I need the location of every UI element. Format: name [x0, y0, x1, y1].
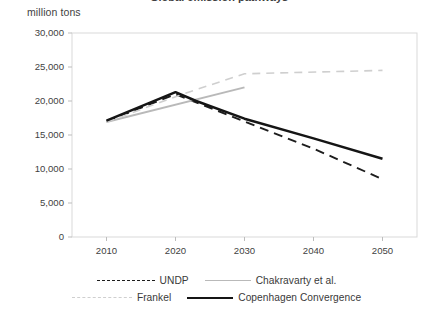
plot-frame	[72, 33, 417, 237]
legend-line-icon-copenhagen	[187, 293, 233, 303]
legend-line-icon-undp	[97, 276, 155, 286]
legend-label-copenhagen: Copenhagen Convergence	[238, 292, 361, 303]
emissions-line-chart: Global emission pathways million tons 30…	[0, 0, 433, 313]
legend-line-icon-frankel	[72, 293, 132, 303]
y-tick-label: 15,000	[35, 129, 64, 140]
legend-item-chakravarty: Chakravarty et al.	[205, 275, 337, 286]
legend-row-bottom: Frankel Copenhagen Convergence	[0, 289, 433, 306]
legend-row-top: UNDP Chakravarty et al.	[0, 272, 433, 289]
y-tick-label: 25,000	[35, 61, 64, 72]
chart-legend: UNDP Chakravarty et al. Frankel Copenhag…	[0, 272, 433, 306]
legend-label-chakravarty: Chakravarty et al.	[256, 275, 337, 286]
plot-area: 30,00025,00020,00015,00010,0005,0000 201…	[0, 0, 433, 272]
x-tick-label: 2040	[303, 245, 324, 256]
x-tick-label: 2030	[234, 245, 255, 256]
legend-item-frankel: Frankel	[72, 292, 171, 303]
legend-label-frankel: Frankel	[137, 292, 171, 303]
y-tick-label: 5,000	[40, 197, 64, 208]
legend-item-undp: UNDP	[97, 275, 189, 286]
y-axis-ticks: 30,00025,00020,00015,00010,0005,0000	[35, 27, 72, 242]
x-tick-label: 2010	[96, 245, 117, 256]
y-tick-label: 20,000	[35, 95, 64, 106]
legend-line-icon-chakravarty	[205, 276, 251, 286]
y-tick-label: 0	[59, 231, 64, 242]
y-tick-label: 10,000	[35, 163, 64, 174]
x-tick-label: 2020	[165, 245, 186, 256]
legend-item-copenhagen-convergence: Copenhagen Convergence	[187, 292, 361, 303]
x-axis-ticks: 20102020203020402050	[96, 237, 393, 256]
y-tick-label: 30,000	[35, 27, 64, 38]
legend-label-undp: UNDP	[160, 275, 189, 286]
x-tick-label: 2050	[372, 245, 393, 256]
